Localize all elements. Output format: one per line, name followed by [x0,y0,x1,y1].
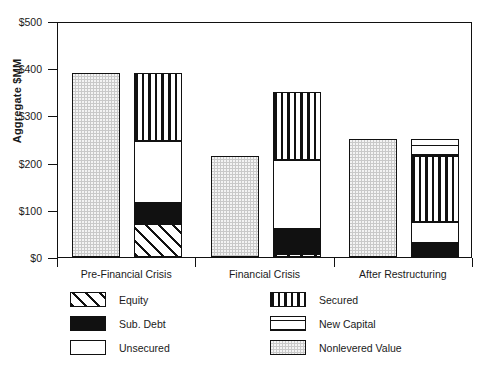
legend-item: New Capital [270,316,376,331]
x-tick-mark [195,258,196,267]
y-tick-mark [48,211,57,212]
bar-segment-equity [134,224,182,257]
y-tick-mark [48,164,57,165]
chart-figure: Aggregate $MM $0$100$200$300$400$500 Pre… [0,0,479,376]
legend-label: Unsecured [119,342,170,354]
y-tick-mark [48,116,57,117]
capital-structure-bar [134,73,182,257]
legend-item: Unsecured [70,340,170,355]
capital-structure-bar [273,92,321,257]
legend-label: New Capital [319,318,376,330]
bar-segment-secured [134,73,182,141]
bar-segment-new-capital [411,139,459,156]
nonlevered-value-bar [211,156,259,257]
bar-segment-secured [273,92,321,160]
bar-segment-equity [411,255,459,257]
bar-segment-nonlevered-value [211,156,259,257]
bar-segment-nonlevered-value [72,73,120,257]
bar-segment-nonlevered-value [349,139,397,257]
bar-segment-sub-debt [273,229,321,254]
legend-swatch-secured [270,292,306,307]
y-tick-label: $500 [0,17,42,27]
y-tick-mark [48,22,57,23]
plot-area [57,22,472,258]
legend-swatch-unsecured [70,340,106,355]
bar-segment-sub-debt [411,243,459,255]
nonlevered-value-bar [349,139,397,257]
legend-label: Nonlevered Value [319,342,402,354]
legend-swatch-new-capital [270,316,306,331]
bar-segment-secured [411,156,459,222]
y-tick-label: $300 [0,111,42,121]
legend-item: Equity [70,292,148,307]
legend-item: Nonlevered Value [270,340,402,355]
x-axis-label: Financial Crisis [229,268,300,280]
bar-segment-unsecured [134,141,182,202]
y-tick-label: $0 [0,253,42,263]
y-tick-label: $400 [0,64,42,74]
x-tick-mark [472,258,473,267]
y-tick-label: $100 [0,206,42,216]
bar-segment-sub-debt [134,203,182,224]
legend-item: Secured [270,292,358,307]
x-axis-label: Pre-Financial Crisis [81,268,172,280]
y-tick-label: $200 [0,159,42,169]
legend-swatch-nonlevered-value [270,340,306,355]
capital-structure-bar [411,139,459,257]
y-tick-mark [48,69,57,70]
bar-segment-equity [273,254,321,257]
nonlevered-value-bar [72,73,120,257]
bar-segment-unsecured [273,160,321,228]
legend-item: Sub. Debt [70,316,166,331]
legend-label: Equity [119,294,148,306]
y-tick-mark [48,258,57,259]
legend-label: Sub. Debt [119,318,166,330]
bar-segment-unsecured [411,222,459,243]
x-axis-label: After Restructuring [359,268,447,280]
legend-swatch-sub-debt [70,316,106,331]
legend-label: Secured [319,294,358,306]
chart-legend: EquitySub. DebtUnsecuredSecuredNew Capit… [70,292,460,362]
legend-swatch-equity [70,292,106,307]
x-tick-mark [57,258,58,267]
x-tick-mark [334,258,335,267]
